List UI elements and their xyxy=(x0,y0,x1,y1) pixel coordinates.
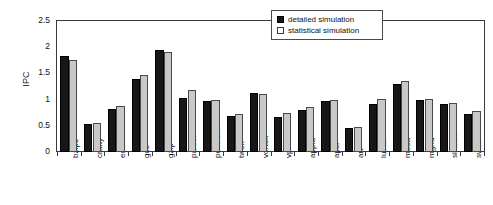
bar-statistical xyxy=(116,106,124,152)
x-tick-mark xyxy=(271,152,272,156)
bar-statistical xyxy=(306,107,314,152)
bar-detailed xyxy=(203,101,211,152)
x-tick-mark xyxy=(247,152,248,156)
x-tick-mark xyxy=(484,152,485,156)
bar-detailed xyxy=(60,56,68,152)
bar-detailed xyxy=(298,110,306,152)
bar-statistical xyxy=(401,81,409,152)
bar-statistical xyxy=(164,52,172,152)
x-tick-mark xyxy=(128,152,129,156)
legend-item-detailed: detailed simulation xyxy=(277,14,378,25)
bar-detailed xyxy=(393,84,401,152)
bar-statistical xyxy=(449,103,457,152)
bar-statistical xyxy=(235,114,243,152)
bar-detailed xyxy=(416,100,424,152)
bar-detailed xyxy=(464,114,472,152)
bar-statistical xyxy=(69,60,77,152)
bar-detailed xyxy=(84,124,92,152)
x-tick-mark xyxy=(176,152,177,156)
bar-statistical xyxy=(211,100,219,152)
ipc-bar-chart: IPC 00.511.522.5 bzip2craftyeongccgzippa… xyxy=(0,0,493,205)
x-tick-mark xyxy=(318,152,319,156)
bar-detailed xyxy=(440,104,448,152)
x-tick-mark xyxy=(223,152,224,156)
legend-label-detailed: detailed simulation xyxy=(288,16,354,24)
bar-statistical xyxy=(140,75,148,152)
legend-swatch-detailed-icon xyxy=(277,16,284,23)
bar-detailed xyxy=(108,109,116,152)
bar-detailed xyxy=(132,79,140,152)
bar-statistical xyxy=(259,94,267,152)
bar-statistical xyxy=(188,90,196,152)
x-tick-mark xyxy=(342,152,343,156)
bar-detailed xyxy=(250,93,258,152)
legend-item-statistical: statistical simulation xyxy=(277,25,378,36)
x-tick-mark xyxy=(152,152,153,156)
bar-detailed xyxy=(274,117,282,152)
bar-detailed xyxy=(345,128,353,152)
bar-detailed xyxy=(155,50,163,152)
bar-detailed xyxy=(179,98,187,152)
bar-detailed xyxy=(227,116,235,152)
bar-statistical xyxy=(283,113,291,152)
x-tick-mark xyxy=(413,152,414,156)
x-tick-mark xyxy=(81,152,82,156)
x-tick-mark xyxy=(57,152,58,156)
bar-statistical xyxy=(354,127,362,152)
legend-swatch-statistical-icon xyxy=(277,27,284,34)
x-tick-mark xyxy=(389,152,390,156)
x-tick-mark xyxy=(294,152,295,156)
bar-detailed xyxy=(369,104,377,152)
x-tick-mark xyxy=(104,152,105,156)
bar-statistical xyxy=(93,123,101,152)
x-tick-mark xyxy=(365,152,366,156)
bar-detailed xyxy=(321,101,329,152)
bar-statistical xyxy=(472,111,480,152)
bar-statistical xyxy=(330,100,338,152)
chart-legend: detailed simulation statistical simulati… xyxy=(271,10,383,40)
legend-label-statistical: statistical simulation xyxy=(288,27,359,35)
bar-statistical xyxy=(377,99,385,152)
bar-statistical xyxy=(425,99,433,152)
x-tick-mark xyxy=(460,152,461,156)
x-tick-mark xyxy=(437,152,438,156)
x-tick-mark xyxy=(199,152,200,156)
